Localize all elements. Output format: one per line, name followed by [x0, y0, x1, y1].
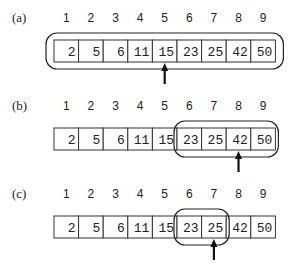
cell-value: 23: [183, 45, 199, 60]
index-label: 8: [235, 187, 242, 201]
panel-label: (c): [12, 186, 26, 201]
panel-label: (a): [12, 10, 26, 25]
index-label: 5: [161, 99, 168, 113]
index-label: 2: [88, 11, 95, 25]
cell-value: 23: [183, 221, 199, 236]
panel-c: (c)123456789256111523254250: [12, 186, 275, 260]
cell-value: 15: [158, 221, 174, 236]
pointer-arrow-icon: [235, 151, 242, 159]
cell-value: 25: [208, 45, 224, 60]
cell-value: 23: [183, 133, 199, 148]
cell-value: 6: [117, 133, 125, 148]
index-label: 9: [260, 99, 267, 113]
index-label: 3: [112, 99, 119, 113]
cell-value: 50: [257, 133, 273, 148]
cell-value: 5: [92, 221, 100, 236]
pointer-arrow-icon: [161, 63, 168, 71]
cell-value: 6: [117, 45, 125, 60]
cell-value: 42: [232, 221, 248, 236]
cell-value: 5: [92, 133, 100, 148]
index-label: 9: [260, 11, 267, 25]
cell-value: 25: [208, 133, 224, 148]
index-label: 7: [211, 11, 218, 25]
panel-label: (b): [12, 98, 27, 113]
cell-value: 25: [208, 221, 224, 236]
cell-value: 15: [158, 45, 174, 60]
cell-value: 6: [117, 221, 125, 236]
index-label: 8: [235, 11, 242, 25]
index-label: 1: [63, 187, 70, 201]
index-label: 7: [211, 187, 218, 201]
index-label: 9: [260, 187, 267, 201]
index-label: 3: [112, 187, 119, 201]
index-label: 2: [88, 99, 95, 113]
cell-value: 2: [68, 221, 76, 236]
index-label: 4: [137, 11, 144, 25]
pointer-arrow-icon: [210, 239, 217, 247]
index-label: 4: [137, 99, 144, 113]
index-label: 7: [211, 99, 218, 113]
cell-value: 2: [68, 45, 76, 60]
panel-a: (a)123456789256111523254250: [12, 10, 283, 84]
index-label: 5: [161, 11, 168, 25]
index-label: 2: [88, 187, 95, 201]
index-label: 4: [137, 187, 144, 201]
index-label: 6: [186, 187, 193, 201]
cell-value: 15: [158, 133, 174, 148]
cell-value: 50: [257, 221, 273, 236]
index-label: 8: [235, 99, 242, 113]
index-label: 3: [112, 11, 119, 25]
index-label: 6: [186, 99, 193, 113]
cell-value: 50: [257, 45, 273, 60]
cell-value: 2: [68, 133, 76, 148]
index-label: 5: [161, 187, 168, 201]
panel-b: (b)123456789256111523254250: [12, 98, 278, 172]
index-label: 1: [63, 11, 70, 25]
index-label: 1: [63, 99, 70, 113]
cell-value: 11: [134, 221, 150, 236]
cell-value: 11: [134, 45, 150, 60]
cell-value: 42: [232, 45, 248, 60]
cell-value: 11: [134, 133, 150, 148]
cell-value: 5: [92, 45, 100, 60]
index-label: 6: [186, 11, 193, 25]
cell-value: 42: [232, 133, 248, 148]
binary-search-diagram: (a)123456789256111523254250(b)1234567892…: [0, 0, 303, 271]
